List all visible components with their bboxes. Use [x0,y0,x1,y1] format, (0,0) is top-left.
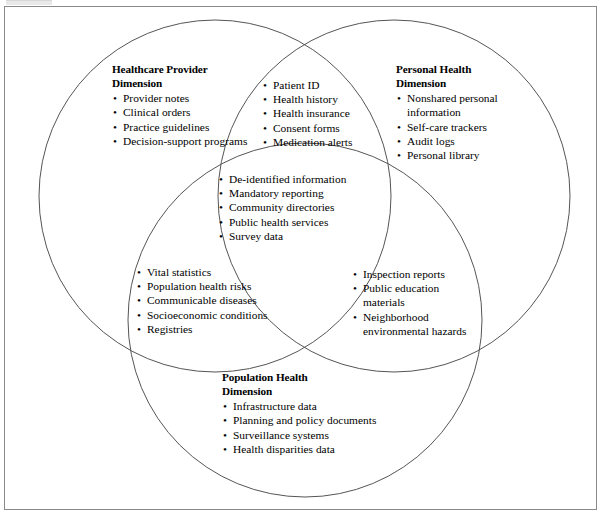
list-item-label: Neighborhood environmental hazards [363,311,466,337]
bullet-icon: • [137,308,141,322]
list-population-health-items: • Infrastructure data • Planning and pol… [222,399,388,456]
list-item-label: Audit logs [407,135,455,147]
bullet-icon: • [219,200,223,214]
list-item: • Health disparities data [222,442,388,456]
list-item: • De-identified information [218,172,376,186]
list-item-label: Vital statistics [147,266,211,278]
region-heading-personal-health: Personal Health Dimension [396,63,546,90]
list-item: • Mandatory reporting [218,186,376,200]
bullet-icon: • [137,293,141,307]
list-item: • Infrastructure data [222,399,388,413]
bullet-icon: • [113,105,117,119]
list-personal-population-items: • Inspection reports • Public education … [352,267,470,338]
list-item: • Neighborhood environmental hazards [352,310,470,338]
bullet-icon: • [223,413,227,427]
bullet-icon: • [263,135,267,149]
list-item-label: Medication alerts [273,136,352,148]
list-item: • Public education materials [352,281,470,309]
list-item: • Medication alerts [262,135,372,149]
bullet-icon: • [263,121,267,135]
list-item-label: Communicable diseases [147,294,257,306]
list-item: • Planning and policy documents [222,413,388,427]
bullet-icon: • [223,428,227,442]
list-item: • Registries [136,322,296,336]
region-provider-population-intersection: • Vital statistics • Population health r… [136,265,296,336]
region-population-health-dimension: Population Health Dimension • Infrastruc… [222,371,388,456]
list-item: • Surveillance systems [222,428,388,442]
bullet-icon: • [397,148,401,162]
list-item: • Health history [262,92,372,106]
bullet-icon: • [263,92,267,106]
bullet-icon: • [223,442,227,456]
bullet-icon: • [219,229,223,243]
list-item: • Personal library [396,148,546,162]
list-item-label: Nonshared personal information [407,92,498,118]
list-item-label: Consent forms [273,122,340,134]
list-item: • Inspection reports [352,267,470,281]
list-item-label: Registries [147,323,193,335]
region-heading-healthcare-provider: Healthcare Provider Dimension [112,63,264,90]
list-item: • Consent forms [262,121,372,135]
bullet-icon: • [137,279,141,293]
list-item-label: Population health risks [147,280,251,292]
list-item-label: Survey data [229,230,283,242]
list-item: • Population health risks [136,279,296,293]
bullet-icon: • [397,91,401,105]
list-item: • Practice guidelines [112,120,264,134]
list-item: • Provider notes [112,91,264,105]
list-personal-health-items: • Nonshared personal information • Self-… [396,91,546,162]
list-item-label: Self-care trackers [407,121,487,133]
bullet-icon: • [137,322,141,336]
region-all-three-intersection: • De-identified information • Mandatory … [218,172,376,243]
list-item-label: Socioeconomic conditions [147,309,268,321]
bullet-icon: • [397,134,401,148]
bullet-icon: • [113,91,117,105]
list-item-label: Patient ID [273,79,320,91]
list-all-three-items: • De-identified information • Mandatory … [218,172,376,243]
bullet-icon: • [353,310,357,324]
region-personal-health-dimension: Personal Health Dimension • Nonshared pe… [396,63,546,162]
bullet-icon: • [353,267,357,281]
list-item: • Health insurance [262,106,372,120]
list-item-label: Surveillance systems [233,429,329,441]
list-item-label: Health disparities data [233,443,335,455]
list-item: • Clinical orders [112,105,264,119]
list-item: • Vital statistics [136,265,296,279]
list-item-label: Personal library [407,149,479,161]
list-item-label: Community directories [229,201,334,213]
list-item: • Socioeconomic conditions [136,308,296,322]
bullet-icon: • [113,134,117,148]
region-heading-population-health: Population Health Dimension [222,371,388,398]
bullet-icon: • [353,281,357,295]
list-provider-personal-items: • Patient ID • Health history • Health i… [262,78,372,149]
list-item-label: De-identified information [229,173,346,185]
region-healthcare-provider-dimension: Healthcare Provider Dimension • Provider… [112,63,264,148]
list-item: • Public health services [218,215,376,229]
bullet-icon: • [113,120,117,134]
bullet-icon: • [263,78,267,92]
figure-root: Healthcare Provider Dimension • Provider… [0,0,605,512]
list-item-label: Health insurance [273,107,350,119]
list-item-label: Infrastructure data [233,400,317,412]
list-item: • Self-care trackers [396,120,546,134]
list-item: • Survey data [218,229,376,243]
list-item-label: Provider notes [123,92,189,104]
list-item: • Nonshared personal information [396,91,546,119]
list-item-label: Planning and policy documents [233,414,376,426]
bullet-icon: • [137,265,141,279]
list-item-label: Practice guidelines [123,121,209,133]
list-item: • Audit logs [396,134,546,148]
bullet-icon: • [219,186,223,200]
list-item: • Decision-support programs [112,134,264,148]
list-healthcare-provider-items: • Provider notes • Clinical orders • Pra… [112,91,264,148]
list-item: • Communicable diseases [136,293,296,307]
bullet-icon: • [223,399,227,413]
list-item-label: Public education materials [363,282,439,308]
list-item: • Community directories [218,200,376,214]
list-item: • Patient ID [262,78,372,92]
bullet-icon: • [263,106,267,120]
bullet-icon: • [397,120,401,134]
list-item-label: Health history [273,93,338,105]
list-item-label: Decision-support programs [123,135,247,147]
list-item-label: Public health services [229,216,328,228]
